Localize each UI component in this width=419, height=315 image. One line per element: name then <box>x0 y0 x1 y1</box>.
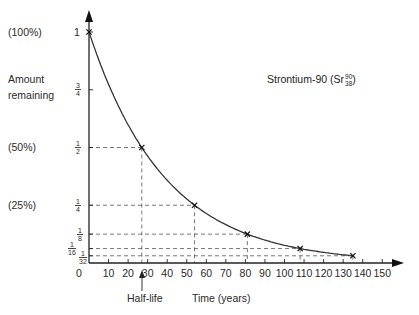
percent-label-50: (50%) <box>8 141 36 153</box>
x-tick-label: 90 <box>259 267 271 279</box>
x-tick-label: 100 <box>276 267 294 279</box>
x-axis-title: Time (years) <box>192 292 251 304</box>
x-tick-label: 30 <box>142 267 154 279</box>
percent-label-25: (25%) <box>8 199 36 211</box>
decay-curve <box>89 32 353 256</box>
percent-label-100: (100%) <box>8 26 42 38</box>
data-point-markers <box>86 29 355 258</box>
y-tick-label-1: 1 <box>74 26 80 38</box>
x-tick-label: 150 <box>373 267 391 279</box>
y-tick-label-1-16: 116 <box>68 241 76 256</box>
guide-lines <box>89 148 353 264</box>
y-axis-arrow-icon <box>85 10 93 22</box>
x-tick-label: 10 <box>103 267 115 279</box>
x-axis-arrow-icon <box>392 259 404 267</box>
y-tick-label-1-32: 132 <box>79 250 87 265</box>
y-tick-label-1-4: 14 <box>75 198 81 213</box>
origin-label: 0 <box>76 267 82 279</box>
x-tick-label: 110 <box>296 267 313 279</box>
y-tick-label-3-4: 34 <box>75 82 81 97</box>
x-tick-label: 130 <box>334 267 352 279</box>
x-tick-label: 70 <box>220 267 232 279</box>
title-text: Strontium-90 (Sr <box>267 73 344 85</box>
x-tick-label: 60 <box>200 267 212 279</box>
x-tick-label: 140 <box>354 267 372 279</box>
x-tick-label: 80 <box>240 267 252 279</box>
y-axis-title-line2: remaining <box>8 89 54 101</box>
x-tick-label: 50 <box>181 267 193 279</box>
x-tick-label: 40 <box>161 267 173 279</box>
y-tick-label-1-8: 18 <box>77 227 83 242</box>
x-tick-label: 20 <box>122 267 134 279</box>
y-tick-label-1-2: 12 <box>75 140 81 155</box>
half-life-label: Half-life <box>127 292 163 304</box>
x-tick-label: 120 <box>315 267 333 279</box>
y-axis-title-line1: Amount <box>8 73 44 85</box>
chart-title: Strontium-90 (Sr9038) <box>267 73 356 87</box>
title-close: ) <box>352 73 356 85</box>
axes <box>89 18 396 263</box>
